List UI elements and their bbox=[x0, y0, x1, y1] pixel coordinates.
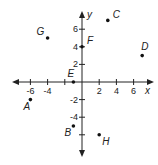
x-axis-label: x bbox=[144, 85, 151, 96]
point-d-label: D bbox=[141, 41, 148, 52]
y-axis-up-arrow-icon bbox=[79, 11, 85, 18]
point-h-dot bbox=[97, 133, 101, 137]
point-c-dot bbox=[106, 19, 110, 23]
point-g-label: G bbox=[37, 26, 45, 37]
point-b-label: B bbox=[64, 127, 71, 138]
point-e-label: E bbox=[67, 68, 74, 79]
y-tick-label: 4 bbox=[73, 42, 78, 52]
point-g-dot bbox=[46, 36, 50, 40]
y-tick-label: -4 bbox=[70, 112, 78, 122]
point-e-dot bbox=[72, 80, 76, 84]
y-axis-label: y bbox=[86, 9, 93, 20]
point-h-label: H bbox=[102, 136, 110, 147]
ticks: -6-4246-4-2246 bbox=[26, 24, 136, 135]
x-axis-left-arrow-icon bbox=[12, 79, 19, 85]
point-c-label: C bbox=[113, 9, 121, 20]
coordinate-plane: xy -6-4246-4-2246 ABCDEFGH bbox=[0, 0, 158, 165]
x-tick-label: -6 bbox=[26, 86, 34, 96]
point-b-dot bbox=[72, 124, 76, 128]
point-f-dot bbox=[80, 45, 84, 49]
x-tick-label: -4 bbox=[44, 86, 52, 96]
y-tick-label: -2 bbox=[70, 95, 78, 105]
x-tick-label: 4 bbox=[114, 86, 119, 96]
x-tick-label: 2 bbox=[97, 86, 102, 96]
point-a-label: A bbox=[22, 101, 30, 112]
point-f-label: F bbox=[87, 35, 94, 46]
x-tick-label: 6 bbox=[131, 86, 136, 96]
y-tick-label: 6 bbox=[73, 24, 78, 34]
points: ABCDEFGH bbox=[22, 9, 148, 146]
point-d-dot bbox=[140, 54, 144, 58]
y-axis-down-arrow-icon bbox=[79, 150, 85, 157]
